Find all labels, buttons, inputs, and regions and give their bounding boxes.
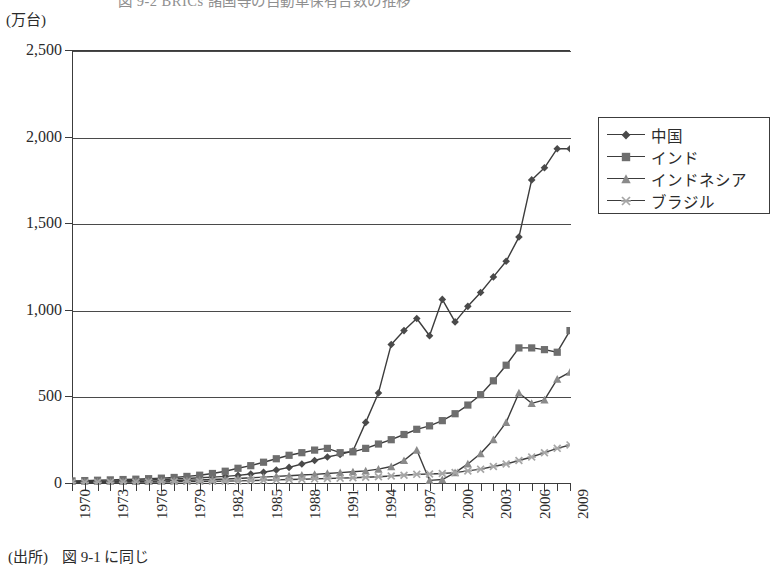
x-axis-tick-mark xyxy=(532,483,533,491)
y-axis-tick-label: 1,500 xyxy=(0,215,62,231)
square-marker-icon xyxy=(607,150,645,164)
x-axis-tick-mark xyxy=(289,483,290,491)
y-axis-tick-mark xyxy=(65,310,72,311)
x-axis-tick-mark xyxy=(327,483,328,491)
y-axis-tick-label: 1,000 xyxy=(0,302,62,318)
legend-item-4[interactable]: ブラジル xyxy=(607,190,763,212)
x-axis-tick-mark xyxy=(570,483,571,491)
x-axis-tick-label: 1988 xyxy=(308,489,323,519)
x-axis-tick-mark xyxy=(417,483,418,491)
source-prefix: (出所) xyxy=(8,549,48,565)
figure-container: 図 9-2 BRICs 諸国等の自動車保有台数の推移 (万台) 中国インドインド… xyxy=(0,0,777,572)
x-axis-tick-label: 2000 xyxy=(461,489,476,519)
legend-box: 中国インドインドネシアブラジル xyxy=(598,117,770,214)
y-axis-tick-label: 500 xyxy=(0,388,62,404)
x-axis-tick-label: 1991 xyxy=(346,489,361,519)
legend-item-1[interactable]: 中国 xyxy=(607,124,763,146)
gridline xyxy=(73,397,571,398)
diamond-marker-icon xyxy=(607,128,645,142)
gridline xyxy=(73,224,571,225)
x-axis-tick-label: 1997 xyxy=(423,489,438,519)
x-axis-tick-label: 2006 xyxy=(538,489,553,519)
x-axis-tick-mark xyxy=(366,483,367,491)
x-axis-tick-mark xyxy=(557,483,558,491)
legend-item-2[interactable]: インド xyxy=(607,146,763,168)
y-axis-tick-label: 2,500 xyxy=(0,42,62,58)
plot-area xyxy=(72,50,570,483)
x-axis-tick-label: 1976 xyxy=(155,489,170,519)
x-axis-tick-label: 1985 xyxy=(270,489,285,519)
x-axis-tick-mark xyxy=(519,483,520,491)
legend-item-3[interactable]: インドネシア xyxy=(607,168,763,190)
x-axis-tick-mark xyxy=(98,483,99,491)
x-axis-tick-label: 1979 xyxy=(193,489,208,519)
x-axis-tick-label: 1970 xyxy=(78,489,93,519)
y-axis-tick-mark xyxy=(65,223,72,224)
legend-item-label: インドネシア xyxy=(651,168,747,190)
x-axis-tick-mark xyxy=(493,483,494,491)
x-axis-line xyxy=(72,483,570,484)
y-axis-tick-label: 0 xyxy=(0,475,62,491)
legend-item-label: インド xyxy=(651,146,699,168)
x-axis-tick-label: 1973 xyxy=(116,489,131,519)
x-axis-tick-mark xyxy=(72,483,73,491)
figure-title-text: 図 9-2 BRICs 諸国等の自動車保有台数の推移 xyxy=(118,0,411,9)
gridline xyxy=(73,311,571,312)
legend-item-label: ブラジル xyxy=(651,190,715,212)
x-axis-tick-mark xyxy=(251,483,252,491)
x-axis-tick-mark xyxy=(404,483,405,491)
x-axis-tick-mark xyxy=(302,483,303,491)
x-axis-tick-mark xyxy=(481,483,482,491)
gridline xyxy=(73,138,571,139)
x-axis-tick-mark xyxy=(174,483,175,491)
gridline xyxy=(73,51,571,52)
x-axis-tick-mark xyxy=(149,483,150,491)
y-axis-tick-mark xyxy=(65,396,72,397)
source-text: 図 9-1 に同じ xyxy=(62,549,150,565)
star-marker-icon xyxy=(607,194,645,208)
x-axis-tick-mark xyxy=(212,483,213,491)
y-axis-tick-label: 2,000 xyxy=(0,129,62,145)
legend-item-label: 中国 xyxy=(651,124,683,146)
y-axis-tick-mark xyxy=(65,50,72,51)
y-axis-tick-mark xyxy=(65,137,72,138)
x-axis-tick-label: 2003 xyxy=(499,489,514,519)
x-axis-tick-mark xyxy=(264,483,265,491)
y-axis-tick-mark xyxy=(65,483,72,484)
x-axis-tick-label: 2009 xyxy=(576,489,591,519)
x-axis-tick-label: 1994 xyxy=(384,489,399,519)
x-axis-tick-mark xyxy=(378,483,379,491)
x-axis-tick-mark xyxy=(455,483,456,491)
x-axis-tick-mark xyxy=(110,483,111,491)
x-axis-tick-mark xyxy=(187,483,188,491)
source-note: (出所)図 9-1 に同じ xyxy=(8,545,150,566)
x-axis-tick-mark xyxy=(225,483,226,491)
x-axis-tick-mark xyxy=(340,483,341,491)
x-axis-tick-mark xyxy=(442,483,443,491)
x-axis-tick-label: 1982 xyxy=(231,489,246,519)
x-axis-tick-mark xyxy=(136,483,137,491)
y-axis-unit-label: (万台) xyxy=(6,8,46,29)
triangle-marker-icon xyxy=(607,172,645,186)
clipped-title: 図 9-2 BRICs 諸国等の自動車保有台数の推移 xyxy=(0,0,777,9)
